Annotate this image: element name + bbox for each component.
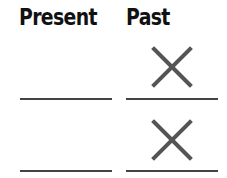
column-header-present: Present xyxy=(19,4,97,30)
answer-blank-past-2[interactable] xyxy=(126,170,218,172)
answer-blank-present-1[interactable] xyxy=(20,98,112,100)
answer-blank-present-2[interactable] xyxy=(20,170,112,172)
x-mark-icon xyxy=(150,118,194,162)
answer-blank-past-1[interactable] xyxy=(126,98,218,100)
x-mark-icon xyxy=(150,45,194,89)
column-header-past: Past xyxy=(126,4,170,30)
